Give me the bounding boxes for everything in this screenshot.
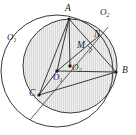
label-center-o1: O1 — [53, 73, 63, 82]
point-dot-a — [67, 17, 70, 20]
label-circle-o1-letter: O — [7, 32, 14, 42]
label-center-o2: O2 — [72, 63, 82, 72]
label-vertex-c: C — [29, 89, 35, 99]
label-vertex-a: A — [65, 4, 71, 14]
label-circle-o2-subscript: 2 — [107, 12, 110, 18]
geometry-canvas — [0, 0, 136, 135]
geometry-figure: A B C M N O1 O2 O1 O2 — [0, 0, 136, 135]
label-vertex-b: B — [122, 66, 128, 76]
label-circle-o2: O2 — [100, 8, 110, 17]
label-circle-o2-letter: O — [100, 7, 107, 17]
label-center-o2-subscript: 2 — [79, 67, 82, 73]
label-center-o2-letter: O — [72, 62, 79, 72]
label-center-o1-subscript: 1 — [60, 77, 63, 83]
label-circle-o1: O1 — [7, 33, 17, 42]
label-center-o1-letter: O — [53, 72, 60, 82]
point-dot-b — [114, 70, 117, 73]
label-point-n: N — [94, 30, 100, 40]
point-dot-c — [37, 93, 40, 96]
label-point-m: M — [77, 41, 85, 51]
label-circle-o1-subscript: 1 — [14, 37, 17, 43]
